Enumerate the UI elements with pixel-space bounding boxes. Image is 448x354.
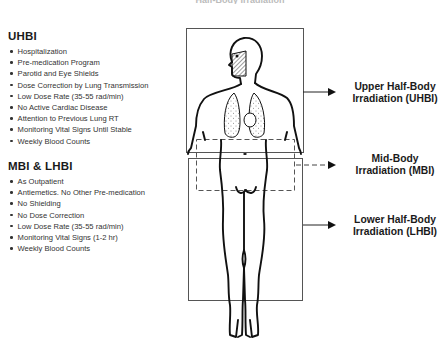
uhbi-label-line1: Upper Half-Body [345,81,445,93]
lhbi-field-label: Lower Half-Body Irradiation (LHBI) [345,214,445,238]
eye-marker [236,55,239,58]
arrow-right-icon [328,161,336,169]
body-irradiation-diagram [0,0,448,354]
mbi-field-box [197,140,295,191]
navel-marker [243,153,247,155]
parotid-eye-shield [232,51,246,76]
mbi-label-line1: Mid-Body [345,153,445,165]
arrow-right-icon [328,221,336,229]
lhbi-field-box [189,159,303,301]
uhbi-label-line2: Irradiation (UHBI) [345,93,445,105]
arrow-right-icon [328,88,336,96]
lhbi-label-line1: Lower Half-Body [345,214,445,226]
lhbi-label-line2: Irradiation (LHBI) [345,226,445,238]
heart [244,113,256,127]
human-body-outline [188,38,301,337]
mbi-field-label: Mid-Body Irradiation (MBI) [345,153,445,177]
left-lung [224,93,240,137]
uhbi-field-label: Upper Half-Body Irradiation (UHBI) [345,81,445,105]
mbi-label-line2: Irradiation (MBI) [345,165,445,177]
